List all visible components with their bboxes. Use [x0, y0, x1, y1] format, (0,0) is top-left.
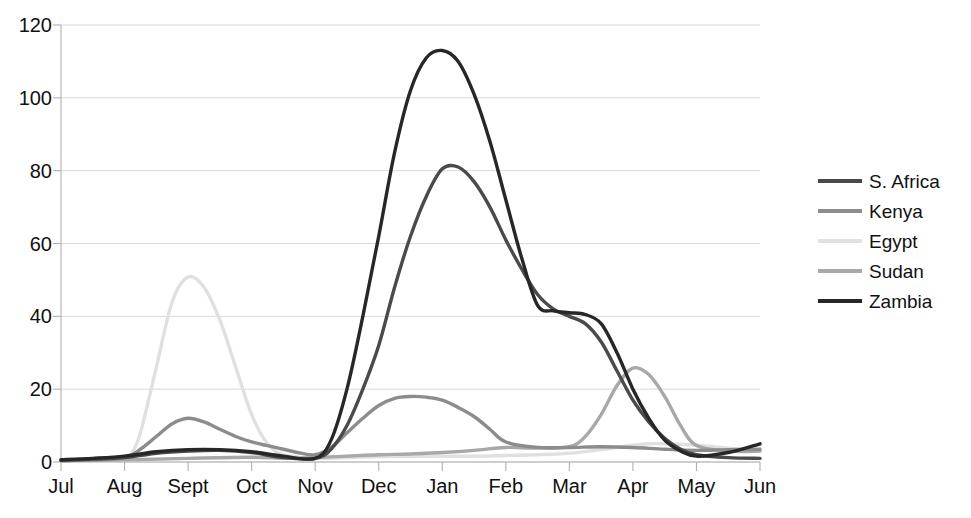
x-tick-label-may: May — [678, 474, 716, 498]
legend-item-sudan[interactable]: Sudan — [818, 256, 968, 286]
legend-item-zambia[interactable]: Zambia — [818, 286, 968, 316]
legend-label: Kenya — [869, 202, 923, 221]
series-line-egypt — [61, 276, 760, 461]
series-line-s-africa — [61, 165, 760, 460]
y-tick-label: 20 — [0, 379, 52, 399]
chart-legend: S. AfricaKenyaEgyptSudanZambia — [818, 166, 968, 316]
legend-line-swatch — [818, 269, 862, 273]
x-tick-label-jan: Jan — [426, 474, 458, 498]
y-tick-label: 0 — [0, 452, 52, 472]
y-tick-label: 60 — [0, 234, 52, 254]
legend-line-swatch — [818, 299, 862, 303]
x-tick-label-feb: Feb — [489, 474, 523, 498]
legend-label: Sudan — [869, 262, 924, 281]
x-tick-label-sept: Sept — [168, 474, 209, 498]
line-chart: 020406080100120 JulAugSeptOctNovDecJanFe… — [0, 0, 971, 518]
x-tick-label-oct: Oct — [236, 474, 267, 498]
x-tick-label-jul: Jul — [48, 474, 74, 498]
y-tick-label: 120 — [0, 15, 52, 35]
y-tick-label: 40 — [0, 306, 52, 326]
legend-label: S. Africa — [869, 172, 940, 191]
legend-line-swatch — [818, 239, 862, 243]
legend-label: Egypt — [869, 232, 918, 251]
legend-line-swatch — [818, 209, 862, 213]
y-axis-labels: 020406080100120 — [0, 0, 52, 518]
legend-line-swatch — [818, 179, 862, 183]
legend-label: Zambia — [869, 292, 932, 311]
x-tick-label-apr: Apr — [617, 474, 648, 498]
legend-item-s-africa[interactable]: S. Africa — [818, 166, 968, 196]
legend-item-egypt[interactable]: Egypt — [818, 226, 968, 256]
x-tick-label-mar: Mar — [552, 474, 586, 498]
y-tick-label: 80 — [0, 161, 52, 181]
y-tick-label: 100 — [0, 88, 52, 108]
x-tick-label-jun: Jun — [744, 474, 776, 498]
x-tick-label-dec: Dec — [361, 474, 397, 498]
series-line-zambia — [61, 50, 760, 459]
x-tick-label-nov: Nov — [297, 474, 333, 498]
x-tick-label-aug: Aug — [107, 474, 143, 498]
legend-item-kenya[interactable]: Kenya — [818, 196, 968, 226]
series-lines — [61, 50, 760, 461]
series-line-sudan — [61, 368, 760, 461]
x-axis-labels: JulAugSeptOctNovDecJanFebMarAprMayJun — [0, 474, 800, 504]
